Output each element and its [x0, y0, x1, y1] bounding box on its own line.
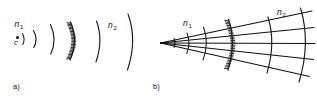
- wavefront-arc-a-3: [96, 21, 100, 62]
- label-n1-panel-b: n 1: [183, 18, 193, 29]
- label-n2-panel-b: n 2: [277, 7, 287, 18]
- ray-4: [161, 43, 314, 60]
- ray-3: [161, 43, 316, 44]
- ray-2: [161, 28, 315, 44]
- panel-a: n 1 c n 2 a): [13, 14, 133, 91]
- label-n2-base-b: n: [277, 7, 282, 17]
- label-n2-base-a: n: [108, 20, 113, 30]
- label-n1-panel-a: n 1: [15, 19, 25, 30]
- wavefront-arc-a-4: [128, 14, 133, 70]
- wavefront-arc-b-4: [299, 8, 305, 82]
- wavefront-arc-a-1: [34, 31, 37, 48]
- panel-label-a: a): [13, 82, 20, 91]
- label-n2-sub-a: 2: [114, 25, 118, 31]
- wavefront-arc-a-2: [51, 25, 55, 55]
- label-source-c: c: [14, 38, 18, 47]
- label-n1-sub-a: 1: [20, 24, 24, 30]
- wavefront-arc-a-0: [23, 34, 25, 45]
- label-n2-sub-b: 2: [283, 12, 287, 18]
- label-n2-panel-a: n 2: [108, 20, 118, 31]
- label-n1-base-a: n: [15, 19, 20, 29]
- ray-5: [161, 43, 310, 77]
- panel-label-b: b): [153, 82, 160, 91]
- physics-figure: n 1 c n 2 a): [0, 0, 317, 101]
- wavefront-arc-b-3: [267, 17, 272, 73]
- label-n1-sub-b: 1: [189, 23, 193, 29]
- figure-canvas: n 1 c n 2 a): [0, 0, 317, 101]
- label-n1-base-b: n: [183, 18, 188, 28]
- panel-b: n 1 n 2 b): [153, 7, 315, 91]
